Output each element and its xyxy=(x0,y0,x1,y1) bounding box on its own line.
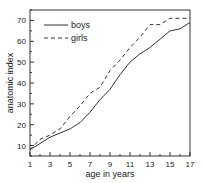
y-tick-label: 10 xyxy=(17,142,26,151)
y-tick-label: 70 xyxy=(17,16,26,25)
x-axis-label: age in years xyxy=(85,169,135,179)
x-tick-label: 11 xyxy=(126,160,135,169)
x-tick-label: 13 xyxy=(146,160,155,169)
legend-label-girls: girls xyxy=(71,33,88,43)
legend: boysgirls xyxy=(44,20,91,43)
x-tick-label: 7 xyxy=(88,160,93,169)
boys-line xyxy=(30,23,190,150)
line-chart: 10203040506070 1357911131517 boysgirls a… xyxy=(0,0,202,183)
y-tick-label: 30 xyxy=(17,100,26,109)
x-tick-label: 9 xyxy=(108,160,113,169)
x-tick-label: 1 xyxy=(28,160,33,169)
x-tick-label: 3 xyxy=(48,160,53,169)
y-tick-label: 40 xyxy=(17,79,26,88)
y-tick-label: 50 xyxy=(17,58,26,67)
y-axis: 10203040506070 xyxy=(17,10,34,156)
legend-label-boys: boys xyxy=(71,20,91,30)
x-tick-label: 5 xyxy=(68,160,73,169)
y-tick-label: 60 xyxy=(17,37,26,46)
x-tick-label: 15 xyxy=(166,160,175,169)
x-axis: 1357911131517 xyxy=(28,152,195,169)
x-tick-label: 17 xyxy=(186,160,195,169)
y-axis-label: anatomic index xyxy=(5,52,15,113)
plot-frame xyxy=(30,10,190,156)
y-tick-label: 20 xyxy=(17,121,26,130)
